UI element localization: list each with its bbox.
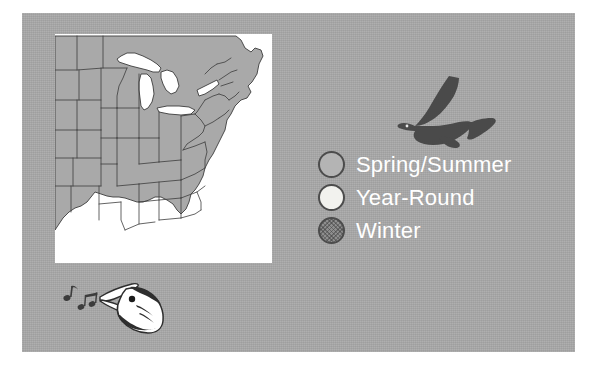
range-map-image	[55, 34, 272, 263]
legend-item-spring-summer[interactable]: Spring/Summer	[318, 148, 568, 181]
singing-bird-head-icon	[40, 275, 170, 337]
legend-swatch-year-round	[318, 184, 345, 211]
bird-head-shape	[100, 284, 163, 333]
flying-bird-svg	[391, 68, 511, 158]
legend-label-winter: Winter	[356, 219, 421, 243]
flying-bird-silhouette	[398, 76, 496, 148]
us-map-svg	[55, 34, 272, 263]
legend-label-spring-summer: Spring/Summer	[356, 153, 511, 177]
bird-eye	[129, 296, 135, 302]
legend-swatch-winter	[318, 217, 345, 244]
singing-bird-svg	[40, 275, 170, 337]
range-map-panel: Spring/Summer Year-Round Winter	[22, 13, 575, 352]
legend-swatch-spring-summer	[318, 151, 345, 178]
legend-item-winter[interactable]: Winter	[318, 214, 568, 247]
flying-bird-eye	[406, 125, 409, 128]
flying-bird-icon	[391, 68, 511, 158]
music-notes-icon	[63, 286, 98, 311]
range-legend: Spring/Summer Year-Round Winter	[318, 148, 568, 247]
legend-item-year-round[interactable]: Year-Round	[318, 181, 568, 214]
legend-label-year-round: Year-Round	[356, 186, 475, 210]
